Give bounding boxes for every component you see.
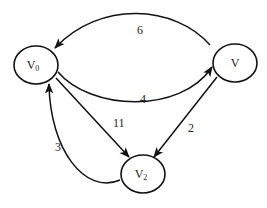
edge-weight-v1-v2: 2 [188, 121, 194, 135]
edge-v0-to-v1 [58, 67, 212, 102]
node-v0-label: V [27, 58, 36, 72]
node-v0: V0 [14, 46, 58, 84]
node-v1: V [213, 44, 257, 82]
edge-weight-v0-v1: 4 [140, 92, 146, 106]
edge-v1-to-v2 [154, 77, 217, 157]
node-v2-label: V [135, 167, 144, 181]
edge-weight-v2-v0: 3 [55, 140, 61, 154]
edge-weight-v0-v2: 11 [113, 116, 125, 130]
edge-weight-v1-v0: 6 [137, 23, 143, 37]
node-v2: V2 [121, 155, 165, 193]
node-v2-subscript: 2 [143, 173, 147, 182]
node-v1-label: V [231, 56, 240, 70]
graph-diagram: 6 4 11 2 3 V0 V V2 [0, 0, 267, 208]
node-v0-subscript: 0 [35, 64, 39, 73]
svg-text:V: V [231, 56, 240, 70]
edge-v1-to-v0 [55, 13, 210, 48]
